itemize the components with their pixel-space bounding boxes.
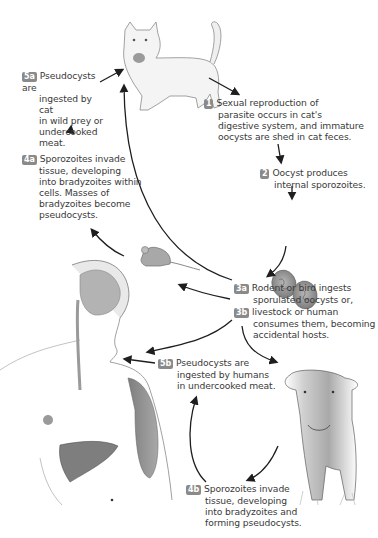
step-3a-badge: 3a: [234, 284, 249, 294]
step-2-badge: 2: [260, 169, 269, 179]
step-5b-label: 5bPseudocysts are ingested by humans in …: [158, 357, 278, 391]
step-3a-label: 3aRodent or bird ingests sporulated oocy…: [234, 282, 374, 305]
step-5a-label: 5aPseudocysts are ingested by cat in wil…: [22, 70, 107, 148]
arrow-step4b-to-step5b: [190, 398, 206, 482]
arrow-step3a-to-mouse: [180, 285, 230, 299]
step-4b-badge: 4b: [186, 485, 201, 495]
step-4a-label: 4aSporozoites invade tissue, developing …: [22, 153, 142, 220]
arrow-step3b-to-human: [148, 320, 232, 352]
arrow-step5b-to-human-mouth: [125, 359, 155, 363]
arrow-cow-to-step4b: [248, 446, 278, 480]
human-illustration: [0, 260, 172, 505]
step-5a-badge: 5a: [22, 72, 37, 82]
arrow-mouse-to-step4a: [92, 230, 124, 256]
step-2-label: 2Oocyst produces internal sporozoites.: [260, 167, 375, 190]
step-3b-badge: 3b: [234, 308, 249, 318]
step-4b-label: 4bSporozoites invade tissue, developing …: [186, 483, 306, 528]
step-4a-badge: 4a: [22, 155, 37, 165]
step-1-badge: 1: [204, 99, 213, 109]
toxoplasma-life-cycle-diagram: 5aPseudocysts are ingested by cat in wil…: [0, 0, 378, 538]
step-5b-badge: 5b: [158, 359, 173, 369]
step-3b-label: 3blivestock or human consumes them, beco…: [234, 306, 378, 340]
step-1-label: 1Sexual reproduction of parasite occurs …: [204, 97, 374, 142]
arrow-step1-to-step2: [278, 144, 281, 162]
